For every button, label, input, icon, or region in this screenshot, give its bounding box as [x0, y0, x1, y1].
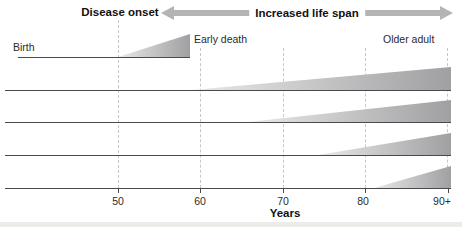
timeline-3	[5, 122, 451, 123]
increased-lifespan-label: Increased life span	[249, 7, 365, 19]
gridline-70	[283, 48, 284, 188]
years-axis-label: Years	[258, 207, 312, 219]
morbidity-wedge-5	[374, 166, 451, 188]
tick-label-70: 70	[268, 195, 298, 207]
bottom-edge-strip	[0, 222, 462, 227]
gridline-60	[200, 48, 201, 188]
axis-tick-80	[365, 188, 366, 193]
early-death-label: Early death	[194, 33, 247, 45]
gridline-50	[118, 20, 119, 188]
axis-tick-90	[448, 188, 449, 193]
timeline-2	[5, 90, 451, 91]
birth-label: Birth	[13, 41, 35, 53]
tick-label-50: 50	[103, 195, 133, 207]
timeline-1	[18, 57, 190, 58]
morbidity-wedge-3	[248, 100, 451, 122]
tick-label-80: 80	[348, 195, 378, 207]
axis-tick-70	[283, 188, 284, 193]
axis-tick-50	[118, 188, 119, 193]
lifespan-arrow: Increased life span	[161, 6, 453, 20]
morbidity-wedge-2	[191, 67, 451, 90]
tick-label-90: 90+	[427, 195, 457, 207]
timeline-4	[5, 155, 451, 156]
morbidity-compression-diagram: Disease onset Increased life span Birth …	[0, 0, 462, 227]
timeline-5	[5, 188, 451, 189]
axis-tick-60	[200, 188, 201, 193]
morbidity-wedge-4	[318, 133, 451, 155]
arrow-right-head-icon	[440, 6, 453, 20]
tick-label-60: 60	[185, 195, 215, 207]
older-adult-label: Older adult	[383, 33, 434, 45]
disease-onset-label: Disease onset	[70, 6, 170, 18]
morbidity-wedge-1	[118, 34, 190, 57]
